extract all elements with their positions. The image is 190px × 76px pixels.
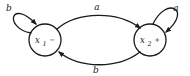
state-diagram: b a a b x 1 − x 2 + bbox=[0, 0, 190, 76]
transition-label-top: a bbox=[94, 2, 99, 12]
transition-arrow-bottom bbox=[59, 52, 140, 65]
state-diagram-canvas: b a a b x 1 − x 2 + bbox=[0, 0, 190, 76]
state-label-x1: x 1 − bbox=[35, 35, 55, 48]
state-x2-subscript: 2 bbox=[147, 40, 152, 48]
transition-label-bottom: b bbox=[93, 65, 99, 75]
state-label-x2: x 2 + bbox=[140, 35, 160, 48]
state-x1-sign: − bbox=[49, 36, 54, 44]
self-loop-right-label: a bbox=[173, 3, 178, 13]
state-x2-sign: + bbox=[154, 36, 159, 44]
transition-arrow-top bbox=[57, 15, 140, 29]
state-x1-subscript: 1 bbox=[43, 40, 47, 48]
state-x2-base: x bbox=[140, 35, 145, 45]
state-x1-base: x bbox=[35, 35, 40, 45]
self-loop-left-label: b bbox=[6, 3, 12, 13]
